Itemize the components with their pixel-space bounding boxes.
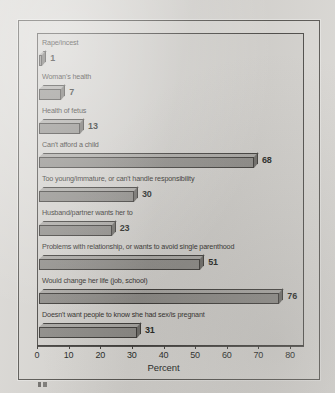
bar-group: Would change her life (job, school)76 <box>38 276 303 310</box>
bar-value-label: 23 <box>120 223 130 233</box>
x-axis-title: Percent <box>37 362 290 373</box>
x-tick <box>227 345 228 349</box>
bar-group: Doesn't want people to know she had sex/… <box>38 310 303 344</box>
bar <box>39 323 137 335</box>
bar <box>39 255 200 267</box>
x-axis: 01020304050607080 Percent <box>37 345 304 375</box>
bar-category-label: Husband/partner wants her to <box>42 208 133 218</box>
x-tick-label: 70 <box>254 350 264 360</box>
bar-side-face <box>42 50 46 66</box>
bar-category-label: Would change her life (job, school) <box>42 276 148 286</box>
plot-frame: Rape/incest1Woman's health7Health of fet… <box>37 33 304 347</box>
bar-category-label: Rape/incest <box>42 38 78 48</box>
bar-group: Health of fetus13 <box>38 106 303 140</box>
bar-group: Husband/partner wants her to23 <box>38 208 303 242</box>
bar <box>39 289 279 301</box>
bar-group: Too young/immature, or can't handle resp… <box>38 174 303 208</box>
x-tick <box>132 345 133 349</box>
bar-front-face <box>39 157 254 168</box>
bar-front-face <box>39 259 200 270</box>
bar <box>39 51 42 63</box>
bar-front-face <box>39 191 134 202</box>
x-tick <box>258 345 259 349</box>
x-tick-label: 20 <box>95 350 105 360</box>
bar-value-label: 13 <box>88 121 98 131</box>
bar-value-label: 31 <box>145 325 155 335</box>
bar-front-face <box>39 327 137 338</box>
x-tick <box>195 345 196 349</box>
bar-group: Problems with relationship, or wants to … <box>38 242 303 276</box>
x-tick <box>100 345 101 349</box>
x-tick <box>69 345 70 349</box>
bar-front-face <box>39 89 61 100</box>
bar <box>39 85 61 97</box>
x-tick-label: 10 <box>64 350 74 360</box>
x-tick-label: 30 <box>127 350 137 360</box>
figure-box: Rape/incest1Woman's health7Health of fet… <box>18 20 320 380</box>
bar-category-label: Problems with relationship, or wants to … <box>42 242 234 252</box>
bar-value-label: 1 <box>50 53 55 63</box>
x-tick-label: 50 <box>190 350 200 360</box>
bar-group: Can't afford a child68 <box>38 140 303 174</box>
x-tick <box>290 345 291 349</box>
x-tick <box>37 345 38 349</box>
x-tick-label: 80 <box>285 350 295 360</box>
x-tick-label: 40 <box>159 350 169 360</box>
bar-front-face <box>39 293 279 304</box>
bar-side-face <box>61 84 65 100</box>
bar-side-face <box>112 220 116 236</box>
bar-category-label: Can't afford a child <box>42 140 99 150</box>
bar-value-label: 76 <box>287 291 297 301</box>
bar-front-face <box>39 123 80 134</box>
x-tick <box>164 345 165 349</box>
bar <box>39 221 112 233</box>
bar-side-face <box>134 186 138 202</box>
bar-value-label: 51 <box>208 257 218 267</box>
bar-category-label: Too young/immature, or can't handle resp… <box>42 174 194 184</box>
bar <box>39 153 254 165</box>
bar-side-face <box>279 288 283 304</box>
bar-value-label: 30 <box>142 189 152 199</box>
bar-group: Woman's health7 <box>38 72 303 106</box>
x-axis-line <box>37 345 304 346</box>
bar-side-face <box>80 118 84 134</box>
x-tick-label: 0 <box>35 350 40 360</box>
bar-category-label: Woman's health <box>42 72 91 82</box>
x-tick-label: 60 <box>222 350 232 360</box>
scan-artifact <box>38 382 47 387</box>
bar <box>39 119 80 131</box>
plot-area: Rape/incest1Woman's health7Health of fet… <box>38 34 303 346</box>
bar-side-face <box>137 322 141 338</box>
bar-side-face <box>254 152 258 168</box>
bar-group: Rape/incest1 <box>38 38 303 72</box>
bar-category-label: Health of fetus <box>42 106 86 116</box>
scanned-page: Rape/incest1Woman's health7Health of fet… <box>0 0 335 393</box>
bar-value-label: 7 <box>69 87 74 97</box>
bar-category-label: Doesn't want people to know she had sex/… <box>42 310 205 320</box>
bar-value-label: 68 <box>262 155 272 165</box>
bar-side-face <box>200 254 204 270</box>
bar <box>39 187 134 199</box>
bar-front-face <box>39 225 112 236</box>
